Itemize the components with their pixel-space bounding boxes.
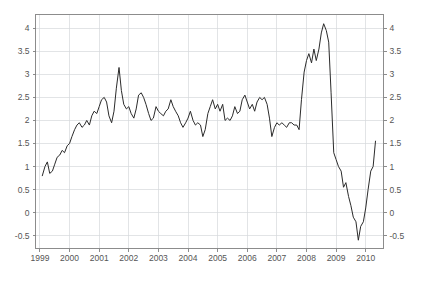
y-tick-label-right: 1.5: [390, 138, 402, 148]
x-tick-label: 2006: [238, 253, 257, 263]
y-tick-label-left: 1: [25, 162, 30, 172]
y-tick-label-left: 1.5: [18, 138, 30, 148]
x-tick-label: 2008: [297, 253, 316, 263]
y-tick-label-right: 0.5: [390, 185, 402, 195]
y-tick-label-right: 1: [390, 162, 395, 172]
chart-figure: -0.500.511.522.533.54 -0.500.511.522.533…: [0, 0, 421, 282]
x-tick-label: 2002: [119, 253, 138, 263]
y-tick-label-left: 3.5: [18, 46, 30, 56]
y-tick-label-right: 2: [390, 115, 395, 125]
y-tick-label-left: 4: [25, 23, 30, 33]
x-tick-label: 2001: [90, 253, 109, 263]
y-tick-label-left: 0: [25, 208, 30, 218]
y-tick-label-right: 0: [390, 208, 395, 218]
x-tick-label: 2007: [267, 253, 286, 263]
y-tick-label-right: 3.5: [390, 46, 402, 56]
x-tick-label: 2005: [208, 253, 227, 263]
line-chart: -0.500.511.522.533.54 -0.500.511.522.533…: [0, 0, 421, 282]
x-tick-label: 1999: [30, 253, 49, 263]
x-tick-label: 2004: [179, 253, 198, 263]
y-tick-label-right: -0.5: [390, 231, 405, 241]
y-tick-label-left: 3: [25, 69, 30, 79]
x-tick-label: 2010: [356, 253, 375, 263]
y-tick-label-left: 0.5: [18, 185, 30, 195]
y-tick-label-left: 2.5: [18, 92, 30, 102]
x-tick-label: 2000: [60, 253, 79, 263]
x-tick-label: 2003: [149, 253, 168, 263]
y-tick-label-left: -0.5: [15, 231, 30, 241]
y-tick-label-right: 4: [390, 23, 395, 33]
x-tick-label: 2009: [327, 253, 346, 263]
y-tick-label-right: 3: [390, 69, 395, 79]
y-tick-label-right: 2.5: [390, 92, 402, 102]
y-tick-label-left: 2: [25, 115, 30, 125]
